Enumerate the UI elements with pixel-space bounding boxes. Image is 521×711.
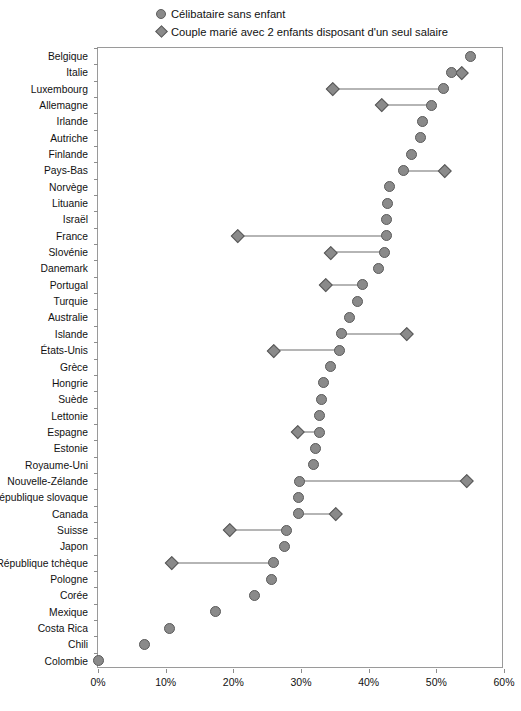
chart-row: États-Unis — [98, 342, 502, 358]
y-axis-tick — [94, 440, 98, 441]
connector-line — [230, 530, 286, 531]
x-axis-label-40: 40% — [358, 676, 379, 689]
y-axis-label-republique-slovaque: République slovaque — [0, 489, 88, 506]
y-axis-label-italie: Italie — [66, 64, 88, 81]
chart-row: Finlande — [98, 146, 502, 162]
y-axis-label-finlande: Finlande — [49, 146, 89, 163]
x-axis-label-30: 30% — [290, 676, 311, 689]
data-point-celibataire — [446, 67, 457, 78]
data-point-celibataire — [381, 214, 392, 225]
y-axis-label-islande: Islande — [55, 326, 88, 343]
y-axis-label-lettonie: Lettonie — [51, 408, 88, 425]
y-axis-label-colombie: Colombie — [45, 653, 89, 670]
data-point-couple-marie — [165, 556, 178, 569]
connector-line — [382, 105, 432, 106]
y-axis-label-australie: Australie — [48, 309, 88, 326]
chart-row: Corée — [98, 587, 502, 603]
data-point-couple-marie — [400, 327, 413, 340]
x-axis-tick — [233, 669, 234, 673]
data-point-celibataire — [373, 263, 384, 274]
chart-row: Lituanie — [98, 195, 502, 211]
y-axis-tick — [94, 391, 98, 392]
data-point-couple-marie — [223, 523, 236, 536]
connector-line — [300, 481, 467, 482]
chart-row: Nouvelle-Zélande — [98, 473, 502, 489]
chart-row: Italie — [98, 64, 502, 80]
chart-row: Belgique — [98, 48, 502, 64]
chart-row: Allemagne — [98, 97, 502, 113]
y-axis-tick — [94, 636, 98, 637]
y-axis-label-autriche: Autriche — [50, 130, 88, 147]
y-axis-label-luxembourg: Luxembourg — [31, 81, 88, 98]
data-point-celibataire — [310, 443, 321, 454]
chart-row: Suède — [98, 391, 502, 407]
y-axis-tick — [94, 489, 98, 490]
chart-row: Autriche — [98, 130, 502, 146]
data-point-celibataire — [336, 328, 347, 339]
chart-row: Israël — [98, 211, 502, 227]
x-axis-label-10: 10% — [155, 676, 176, 689]
y-axis-tick — [94, 146, 98, 147]
y-axis-label-allemagne: Allemagne — [39, 97, 88, 114]
y-axis-tick — [94, 326, 98, 327]
x-axis-label-60: 60% — [493, 676, 514, 689]
data-point-celibataire — [281, 525, 292, 536]
y-axis-tick — [94, 195, 98, 196]
data-point-celibataire — [334, 345, 345, 356]
y-axis-tick — [94, 277, 98, 278]
data-point-celibataire — [379, 247, 390, 258]
y-axis-tick — [94, 653, 98, 654]
data-point-celibataire — [382, 198, 393, 209]
data-point-celibataire — [352, 296, 363, 307]
chart-row: Estonie — [98, 440, 502, 456]
y-axis-tick — [94, 97, 98, 98]
chart-row: Royaume-Uni — [98, 457, 502, 473]
chart-row: Islande — [98, 326, 502, 342]
connector-line — [333, 88, 443, 89]
data-point-celibataire — [344, 312, 355, 323]
y-axis-tick — [94, 113, 98, 114]
chart-row: République tchèque — [98, 555, 502, 571]
chart-row: Pologne — [98, 571, 502, 587]
data-point-celibataire — [415, 132, 426, 143]
chart-row: Turquie — [98, 293, 502, 309]
y-axis-label-hongrie: Hongrie — [52, 375, 88, 392]
x-axis-label-50: 50% — [426, 676, 447, 689]
y-axis-label-mexique: Mexique — [49, 604, 88, 621]
data-point-celibataire — [308, 459, 319, 470]
y-axis-tick — [94, 309, 98, 310]
data-point-celibataire — [318, 377, 329, 388]
y-axis-label-japon: Japon — [60, 538, 88, 555]
y-axis-tick — [94, 375, 98, 376]
data-point-celibataire — [357, 279, 368, 290]
y-axis-tick — [94, 64, 98, 65]
x-axis-tick — [436, 669, 437, 673]
connector-line — [238, 235, 387, 236]
data-point-celibataire — [316, 394, 327, 405]
legend-label-couple-marie: Couple marié avec 2 enfants disposant d'… — [171, 26, 448, 38]
chart-row: Chili — [98, 636, 502, 652]
y-axis-label-israel: Israël — [63, 211, 88, 228]
data-point-couple-marie — [375, 98, 388, 111]
y-axis-label-irlande: Irlande — [57, 113, 88, 130]
data-point-celibataire — [381, 230, 392, 241]
chart-row: Pays-Bas — [98, 162, 502, 178]
y-axis-tick — [94, 48, 98, 49]
chart-row: Danemark — [98, 260, 502, 276]
y-axis-label-grece: Grèce — [60, 359, 88, 376]
y-axis-label-republique-tcheque: République tchèque — [0, 555, 88, 572]
chart-row: Irlande — [98, 113, 502, 129]
y-axis-tick — [94, 244, 98, 245]
data-point-celibataire — [426, 100, 437, 111]
y-axis-tick — [94, 81, 98, 82]
data-point-couple-marie — [329, 507, 342, 520]
y-axis-tick — [94, 457, 98, 458]
connector-line — [342, 333, 407, 334]
y-axis-tick — [94, 522, 98, 523]
chart-container: Célibataire sans enfant Couple marié ave… — [0, 0, 521, 711]
plot-inner: BelgiqueItalieLuxembourgAllemagneIrlande… — [98, 48, 502, 667]
data-point-celibataire — [325, 361, 336, 372]
data-point-celibataire — [314, 427, 325, 438]
y-axis-tick — [94, 571, 98, 572]
chart-row: Costa Rica — [98, 620, 502, 636]
